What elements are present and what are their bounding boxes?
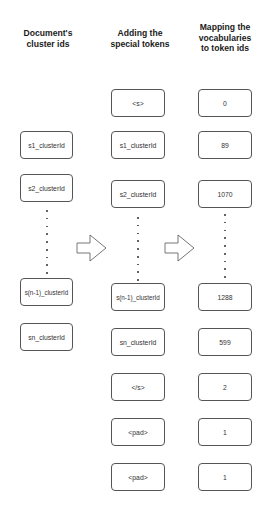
token-id-box: 1 [198,463,252,491]
header-line: cluster ids [8,39,88,50]
cluster-id-box: s2_clusterId [20,174,73,202]
cluster-id-box: sn_clusterId [20,323,73,351]
header-line: Document's [8,28,88,39]
token-id-box: 89 [198,131,252,159]
header-line: vocabularies [185,33,265,44]
header-special-tokens: Adding the special tokens [98,28,182,49]
header-line: Adding the [98,28,182,39]
ellipsis-dots [224,214,226,284]
ellipsis-dots [46,210,48,280]
arrow-right-icon [164,234,196,262]
token-id-box: 1288 [198,283,252,311]
token-id-box: 599 [198,328,252,356]
token-id-box: 2 [198,373,252,401]
header-cluster-ids: Document's cluster ids [8,28,88,49]
arrow-right-icon [76,234,108,262]
token-id-box: 1070 [198,180,252,208]
header-line: to token ids [185,43,265,54]
special-token-box: </s> [111,373,165,401]
token-id-box: 1 [198,418,252,446]
special-token-box: <s> [111,89,165,117]
token-box: s2_clusterId [111,180,165,208]
token-id-box: 0 [198,89,252,117]
header-line: Mapping the [185,22,265,33]
special-token-box: <pad> [111,418,165,446]
ellipsis-dots [137,217,139,287]
header-token-ids: Mapping the vocabularies to token ids [185,22,265,54]
header-line: special tokens [98,39,182,50]
cluster-id-box: s1_clusterId [20,131,73,159]
token-box: s(n-1)_clusterId [111,283,165,311]
special-token-box: <pad> [111,463,165,491]
cluster-id-box: s(n-1)_clusterId [20,278,73,306]
token-box: sn_clusterId [111,328,165,356]
token-box: s1_clusterId [111,131,165,159]
